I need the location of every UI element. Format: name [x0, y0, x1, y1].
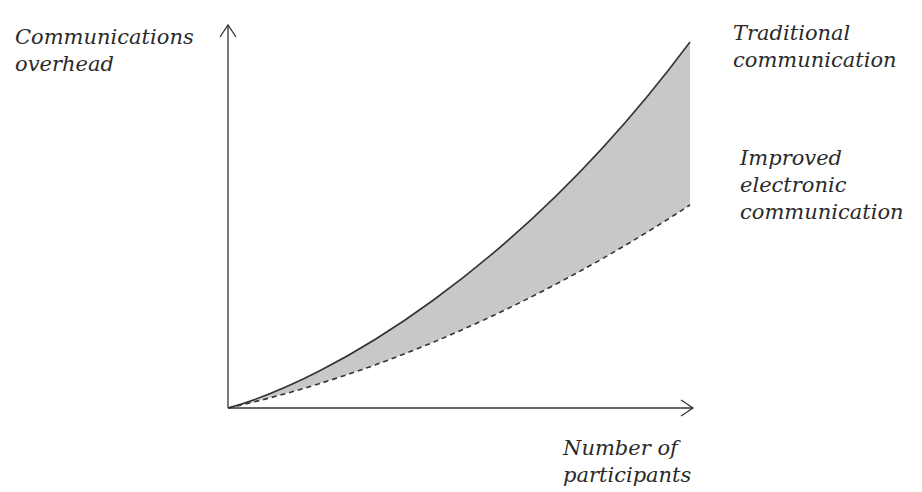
improved-label: Improved electronic communication: [740, 145, 904, 226]
improved-label-line: electronic: [740, 172, 904, 199]
gap-shading: [228, 42, 690, 408]
traditional-label-line: communication: [733, 47, 897, 74]
x-axis-label-line: participants: [563, 462, 691, 489]
x-axis-label-line: Number of: [563, 435, 691, 462]
y-axis-label-line: Communications: [15, 24, 194, 51]
y-axis-label-line: overhead: [15, 51, 194, 78]
y-axis-label: Communications overhead: [15, 24, 194, 78]
x-axis-label: Number of participants: [563, 435, 691, 489]
improved-label-line: Improved: [740, 145, 904, 172]
traditional-label: Traditional communication: [733, 20, 897, 74]
traditional-label-line: Traditional: [733, 20, 897, 47]
improved-label-line: communication: [740, 199, 904, 226]
